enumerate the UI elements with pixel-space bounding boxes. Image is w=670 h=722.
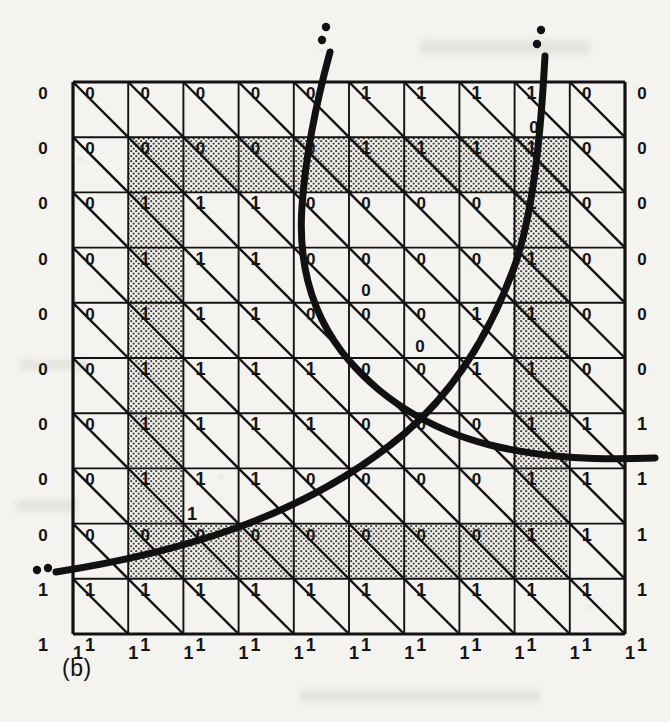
node-label-r5-c2: 1 <box>195 359 205 379</box>
node-label-r6-c4: 1 <box>306 414 316 434</box>
node-label-r3-c0: 0 <box>85 250 94 269</box>
node-label-r4-c2: 1 <box>195 304 205 324</box>
node-label-r3-c2: 1 <box>195 249 205 269</box>
node-label-r10-c0: 1 <box>85 635 95 655</box>
cell-diagonal-r0-c5 <box>349 82 404 137</box>
cell-diagonal-r9-c9 <box>570 579 625 634</box>
node-label-r7-c2: 1 <box>195 469 205 489</box>
node-label-r2-c1: 1 <box>140 193 150 213</box>
node-label-r1-c7: 1 <box>471 138 481 158</box>
cell-diagonal-r6-c2 <box>183 413 238 468</box>
node-label-r0-c9: 0 <box>582 84 591 103</box>
node-label-r0-c6: 1 <box>416 83 426 103</box>
triangulated-grid-diagram: 0000011110000000111100011100001000111000… <box>0 0 670 722</box>
margin-label-bottom-c3: 1 <box>239 643 249 663</box>
node-label-r9-c5: 1 <box>361 580 371 600</box>
node-label-r3-c1: 1 <box>140 249 150 269</box>
node-label-r6-c8: 1 <box>527 414 537 434</box>
node-label-extra-2: 0 <box>415 337 424 356</box>
margin-label-bottom-c9: 1 <box>570 643 580 663</box>
node-label-r7-c0: 0 <box>85 470 94 489</box>
node-label-r7-c9: 1 <box>582 469 592 489</box>
node-label-r9-c7: 1 <box>471 580 481 600</box>
node-label-r5-c7: 1 <box>471 359 481 379</box>
node-label-r1-c9: 0 <box>582 139 591 158</box>
cell-diagonal-r3-c0 <box>73 248 128 303</box>
margin-label-left-r7: 0 <box>38 470 47 489</box>
node-label-r1-c0: 0 <box>85 139 94 158</box>
node-label-r2-c0: 0 <box>85 194 94 213</box>
cell-diagonal-r3-c9 <box>570 248 625 303</box>
node-label-r5-c9: 0 <box>582 360 591 379</box>
node-label-r1-c5: 1 <box>361 138 371 158</box>
cell-diagonal-r0-c7 <box>459 82 514 137</box>
node-label-r2-c4: 0 <box>306 194 315 213</box>
node-label-r5-c4: 1 <box>306 359 316 379</box>
node-label-r3-c7: 0 <box>472 250 481 269</box>
margin-label-bottom-c8: 1 <box>515 643 525 663</box>
node-label-r0-c7: 1 <box>471 83 481 103</box>
node-label-r10-c1: 1 <box>140 635 150 655</box>
cell-diagonal-r1-c0 <box>73 137 128 192</box>
node-label-r10-c7: 1 <box>471 635 481 655</box>
node-label-r8-c6: 0 <box>416 526 425 545</box>
cell-diagonal-r9-c3 <box>239 579 294 634</box>
node-label-r2-c9: 0 <box>582 194 591 213</box>
node-label-r0-c2: 0 <box>196 84 205 103</box>
node-label-r8-c9: 1 <box>582 525 592 545</box>
cell-diagonal-r4-c5 <box>349 303 404 358</box>
node-label-r10-c8: 1 <box>527 635 537 655</box>
node-label-r10-c4: 1 <box>306 635 316 655</box>
cell-diagonal-r9-c2 <box>183 579 238 634</box>
node-label-r9-c0: 1 <box>85 580 95 600</box>
node-label-extra-1: 0 <box>361 281 370 300</box>
node-label-r4-c3: 1 <box>251 304 261 324</box>
node-label-r3-c8: 1 <box>527 249 537 269</box>
figure-caption: (b) <box>62 655 92 682</box>
node-label-r9-c6: 1 <box>416 580 426 600</box>
node-label-r3-c3: 1 <box>251 249 261 269</box>
cell-diagonal-r7-c6 <box>404 468 459 523</box>
node-label-r9-c4: 1 <box>306 580 316 600</box>
margin-label-bottom-c7: 1 <box>459 643 469 663</box>
node-label-r6-c9: 1 <box>582 414 592 434</box>
cell-diagonal-r9-c7 <box>459 579 514 634</box>
node-label-r7-c8: 1 <box>527 469 537 489</box>
margin-label-bottom-c10: 1 <box>625 643 635 663</box>
shade-band-bottom-horizontal-band <box>128 524 568 579</box>
cell-diagonal-r9-c4 <box>294 579 349 634</box>
node-label-r1-c1: 0 <box>140 139 149 158</box>
node-label-r4-c9: 0 <box>582 305 591 324</box>
node-label-r9-c10: 1 <box>637 580 647 600</box>
margin-label-left-r4: 0 <box>38 305 47 324</box>
node-label-r6-c2: 1 <box>195 414 205 434</box>
cell-diagonal-r4-c9 <box>570 303 625 358</box>
cell-diagonal-r2-c7 <box>459 192 514 247</box>
curve-2-monotone-rising-dot-top-0 <box>537 26 545 34</box>
node-label-r7-c7: 0 <box>472 470 481 489</box>
margin-label-bottom-c4: 1 <box>294 643 304 663</box>
node-label-r2-c5: 0 <box>361 194 370 213</box>
node-label-r0-c3: 0 <box>251 84 260 103</box>
margin-label-left-r1: 0 <box>38 139 47 158</box>
node-label-r4-c10: 0 <box>637 305 646 324</box>
cell-diagonal-r2-c9 <box>570 192 625 247</box>
cell-diagonal-r2-c0 <box>73 192 128 247</box>
margin-label-left-r5: 0 <box>38 360 47 379</box>
node-label-r5-c3: 1 <box>251 359 261 379</box>
margin-label-left-r2: 0 <box>38 194 47 213</box>
cell-diagonal-r2-c5 <box>349 192 404 247</box>
node-label-r9-c1: 1 <box>140 580 150 600</box>
node-label-r4-c6: 0 <box>416 305 425 324</box>
node-label-r2-c3: 1 <box>251 193 261 213</box>
node-label-r3-c10: 0 <box>637 250 646 269</box>
node-label-r9-c9: 1 <box>582 580 592 600</box>
cell-diagonal-r4-c0 <box>73 303 128 358</box>
node-label-r4-c8: 1 <box>527 304 537 324</box>
cell-diagonal-r5-c2 <box>183 358 238 413</box>
cell-diagonal-r8-c9 <box>570 524 625 579</box>
node-label-r8-c7: 0 <box>472 526 481 545</box>
cell-diagonal-r9-c6 <box>404 579 459 634</box>
curve-1-parabola-opening-right-dot-top-0 <box>322 23 330 31</box>
node-label-r8-c5: 0 <box>361 526 370 545</box>
